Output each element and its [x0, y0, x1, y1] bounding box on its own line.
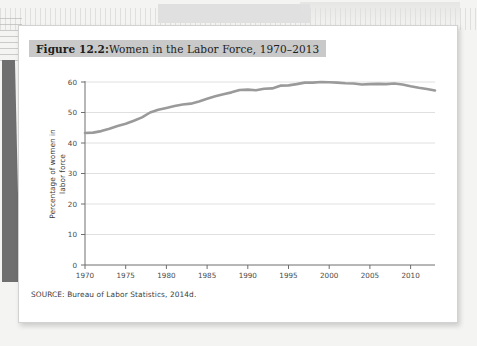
x-tick-label: 1970 — [76, 271, 95, 280]
line-chart: 60 50 40 30 20 10 0 1970 1975 1980 1985 — [19, 26, 457, 322]
y-tick-label: 10 — [68, 230, 78, 239]
data-line-series — [85, 82, 435, 133]
x-tick-label: 2010 — [401, 271, 420, 280]
source-note: SOURCE: Bureau of Labor Statistics, 2014… — [31, 290, 196, 299]
y-tick-label: 50 — [68, 108, 78, 117]
x-tick-label: 1985 — [198, 271, 216, 280]
y-axis-title-line2: labor force — [58, 154, 67, 194]
x-tick-label: 2000 — [320, 271, 339, 280]
y-axis-title-line1: Percentage of women in — [48, 129, 57, 219]
x-tick-label: 1975 — [117, 271, 135, 280]
gridlines — [85, 82, 435, 235]
figure-page: Figure 12.2: Women in the Labor Force, 1… — [18, 25, 458, 323]
y-axis-title: Percentage of women in labor force — [48, 129, 67, 219]
x-tick-label: 1995 — [279, 271, 297, 280]
y-tick-label: 60 — [68, 78, 78, 87]
y-tick-label: 0 — [72, 261, 77, 270]
y-tick-labels: 60 50 40 30 20 10 0 — [68, 78, 78, 270]
x-tick-label: 1980 — [157, 271, 176, 280]
x-tick-label: 2005 — [361, 271, 379, 280]
x-tick-label: 1990 — [239, 271, 258, 280]
y-tick-label: 20 — [68, 200, 78, 209]
x-tick-marks — [85, 265, 411, 269]
y-tick-marks — [81, 82, 85, 265]
desk-gray-band — [158, 4, 310, 23]
y-tick-label: 30 — [68, 169, 78, 178]
x-tick-labels: 1970 1975 1980 1985 1990 1995 2000 2005 … — [76, 271, 420, 280]
y-tick-label: 40 — [68, 139, 78, 148]
